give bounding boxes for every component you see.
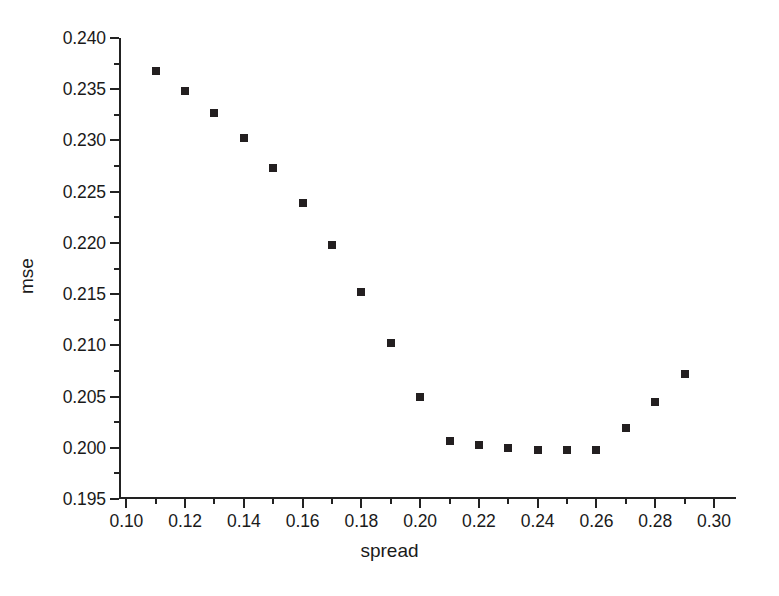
- x-tick-label: 0.18: [345, 511, 379, 532]
- x-tick-major: [419, 499, 421, 508]
- x-tick-minor: [331, 499, 333, 504]
- y-tick-minor: [114, 319, 119, 321]
- x-tick-major: [478, 499, 480, 508]
- data-point: [622, 424, 630, 432]
- x-tick-major: [595, 499, 597, 508]
- y-tick-label: 0.235: [63, 79, 106, 100]
- data-point: [446, 437, 454, 445]
- x-tick-major: [360, 499, 362, 508]
- data-point: [299, 199, 307, 207]
- y-tick-major: [110, 293, 119, 295]
- y-tick-major: [110, 447, 119, 449]
- data-point: [152, 67, 160, 75]
- y-tick-label: 0.230: [63, 130, 106, 151]
- data-point: [651, 398, 659, 406]
- plot-area: 0.1950.2000.2050.2100.2150.2200.2250.230…: [119, 38, 736, 499]
- data-point: [328, 241, 336, 249]
- data-point: [504, 444, 512, 452]
- data-point: [387, 339, 395, 347]
- y-axis-spine: [119, 38, 121, 499]
- x-tick-major: [243, 499, 245, 508]
- x-tick-label: 0.22: [462, 511, 496, 532]
- x-tick-label: 0.24: [521, 511, 555, 532]
- y-tick-minor: [114, 370, 119, 372]
- y-tick-major: [110, 88, 119, 90]
- y-tick-major: [110, 344, 119, 346]
- y-tick-minor: [114, 165, 119, 167]
- x-tick-major: [713, 499, 715, 508]
- data-point: [240, 134, 248, 142]
- y-tick-minor: [114, 472, 119, 474]
- y-tick-label: 0.220: [63, 232, 106, 253]
- x-tick-major: [184, 499, 186, 508]
- x-tick-minor: [272, 499, 274, 504]
- y-axis-title: mse: [16, 258, 38, 294]
- x-tick-minor: [449, 499, 451, 504]
- y-tick-minor: [114, 216, 119, 218]
- data-point: [416, 393, 424, 401]
- x-axis-title: spread: [0, 540, 779, 562]
- data-point: [269, 164, 277, 172]
- y-tick-minor: [114, 421, 119, 423]
- x-tick-minor: [213, 499, 215, 504]
- data-point: [592, 446, 600, 454]
- data-point: [181, 87, 189, 95]
- data-point: [681, 370, 689, 378]
- x-tick-minor: [684, 499, 686, 504]
- x-tick-label: 0.30: [697, 511, 731, 532]
- data-point: [534, 446, 542, 454]
- x-tick-label: 0.26: [580, 511, 614, 532]
- x-tick-major: [537, 499, 539, 508]
- y-tick-minor: [114, 268, 119, 270]
- data-point: [563, 446, 571, 454]
- y-tick-minor: [114, 114, 119, 116]
- data-point: [357, 288, 365, 296]
- x-tick-minor: [507, 499, 509, 504]
- x-tick-label: 0.12: [168, 511, 202, 532]
- y-tick-major: [110, 396, 119, 398]
- y-tick-label: 0.240: [63, 28, 106, 49]
- x-tick-minor: [155, 499, 157, 504]
- x-tick-label: 0.20: [403, 511, 437, 532]
- x-tick-minor: [625, 499, 627, 504]
- y-tick-label: 0.225: [63, 181, 106, 202]
- x-tick-major: [654, 499, 656, 508]
- y-tick-label: 0.205: [63, 386, 106, 407]
- y-tick-label: 0.200: [63, 437, 106, 458]
- x-axis-spine: [119, 497, 736, 499]
- x-tick-minor: [390, 499, 392, 504]
- y-tick-major: [110, 139, 119, 141]
- data-point: [475, 441, 483, 449]
- data-point: [210, 109, 218, 117]
- y-tick-minor: [114, 63, 119, 65]
- y-tick-major: [110, 242, 119, 244]
- x-tick-label: 0.16: [286, 511, 320, 532]
- x-tick-major: [302, 499, 304, 508]
- y-tick-label: 0.215: [63, 284, 106, 305]
- x-tick-label: 0.14: [227, 511, 261, 532]
- x-tick-minor: [566, 499, 568, 504]
- y-tick-major: [110, 37, 119, 39]
- scatter-plot-figure: 0.1950.2000.2050.2100.2150.2200.2250.230…: [0, 0, 779, 596]
- x-tick-major: [125, 499, 127, 508]
- x-tick-label: 0.28: [638, 511, 672, 532]
- y-tick-major: [110, 191, 119, 193]
- y-tick-label: 0.195: [63, 489, 106, 510]
- x-tick-label: 0.10: [110, 511, 144, 532]
- y-tick-label: 0.210: [63, 335, 106, 356]
- y-tick-major: [110, 498, 119, 500]
